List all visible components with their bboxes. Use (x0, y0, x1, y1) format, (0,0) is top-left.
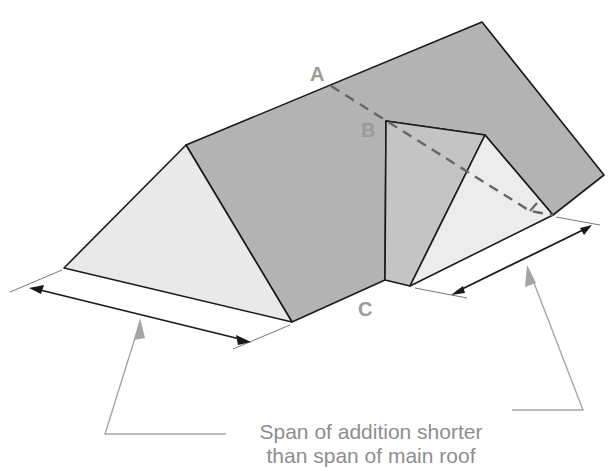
caption-line-2: than span of main roof (226, 444, 516, 468)
point-c-label: C (358, 299, 372, 319)
caption-line-1: Span of addition shorter (226, 420, 516, 444)
point-a-label: A (310, 64, 324, 84)
roof-diagram (0, 0, 609, 471)
point-b-label: B (361, 120, 375, 140)
span-caption: Span of addition shorter than span of ma… (226, 420, 516, 468)
